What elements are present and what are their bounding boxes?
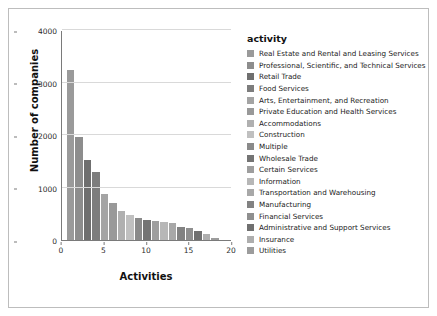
legend-item-label: Private Education and Health Services: [259, 108, 396, 115]
y-tick-mark: [14, 241, 17, 242]
x-axis-label: Activities: [61, 271, 231, 282]
x-tick-label: 10: [141, 242, 151, 255]
legend-swatch-icon: [247, 201, 254, 208]
legend-swatch-icon: [247, 155, 254, 162]
legend-swatch-icon: [247, 50, 254, 57]
legend-item-label: Information: [259, 178, 301, 185]
legend-item[interactable]: Information: [247, 176, 427, 188]
gridline: [62, 134, 231, 135]
legend-item[interactable]: Wholesale Trade: [247, 152, 427, 164]
legend-swatch-icon: [247, 120, 254, 127]
legend-swatch-icon: [247, 166, 254, 173]
x-tick-mark: [61, 242, 62, 245]
legend-item[interactable]: Transportation and Warehousing: [247, 187, 427, 199]
bar: [203, 234, 211, 240]
x-tick-mark: [231, 242, 232, 245]
legend-items: Real Estate and Rental and Leasing Servi…: [247, 48, 427, 257]
legend-title: activity: [247, 33, 427, 44]
legend-swatch-icon: [247, 189, 254, 196]
y-tick-mark: [14, 189, 17, 190]
bar: [186, 228, 194, 240]
legend-swatch-icon: [247, 236, 254, 243]
legend-item-label: Food Services: [259, 85, 309, 92]
x-tick-mark: [146, 242, 147, 245]
legend-item[interactable]: Accommodations: [247, 118, 427, 130]
y-axis-label: Number of companies: [29, 16, 40, 206]
x-tick-mark: [104, 242, 105, 245]
gridline: [62, 82, 231, 83]
legend-swatch-icon: [247, 62, 254, 69]
legend-item-label: Manufacturing: [259, 201, 311, 208]
legend-item-label: Arts, Entertainment, and Recreation: [259, 97, 389, 104]
legend-item-label: Retail Trade: [259, 73, 301, 80]
bar: [211, 238, 219, 240]
legend-item-label: Utilities: [259, 247, 286, 254]
legend-item-label: Accommodations: [259, 120, 321, 127]
legend-item[interactable]: Administrative and Support Services: [247, 222, 427, 234]
y-tick-label: 0: [17, 237, 57, 246]
bar: [101, 194, 109, 240]
legend-item-label: Construction: [259, 131, 305, 138]
y-tick-mark: [14, 84, 17, 85]
legend-item[interactable]: Food Services: [247, 83, 427, 95]
legend-item[interactable]: Real Estate and Rental and Leasing Servi…: [247, 48, 427, 60]
x-tick-label: 0: [59, 242, 64, 255]
legend-item[interactable]: Multiple: [247, 141, 427, 153]
bar: [75, 137, 83, 240]
bar: [92, 172, 100, 240]
bar: [169, 223, 177, 240]
gridline: [62, 187, 231, 188]
gridline: [62, 29, 231, 30]
chart-page: 01000200030004000 05101520 Activities Nu…: [0, 0, 437, 316]
legend-item-label: Financial Services: [259, 213, 323, 220]
legend-item[interactable]: Arts, Entertainment, and Recreation: [247, 94, 427, 106]
legend: activity Real Estate and Rental and Leas…: [247, 33, 427, 257]
legend-item[interactable]: Professional, Scientific, and Technical …: [247, 60, 427, 72]
y-tick-mark: [14, 136, 17, 137]
x-tick-label: 15: [184, 242, 194, 255]
plot-axes: [61, 31, 231, 241]
legend-item[interactable]: Utilities: [247, 245, 427, 257]
y-tick-mark: [14, 31, 17, 32]
legend-item[interactable]: Financial Services: [247, 210, 427, 222]
bar: [67, 70, 75, 240]
bar: [152, 221, 160, 240]
legend-swatch-icon: [247, 247, 254, 254]
legend-swatch-icon: [247, 97, 254, 104]
legend-item[interactable]: Private Education and Health Services: [247, 106, 427, 118]
bar: [160, 222, 168, 240]
legend-item[interactable]: Construction: [247, 129, 427, 141]
legend-item-label: Insurance: [259, 236, 294, 243]
legend-item-label: Real Estate and Rental and Leasing Servi…: [259, 50, 419, 57]
bar: [135, 218, 143, 240]
bar: [194, 231, 202, 240]
x-tick-label: 5: [101, 242, 106, 255]
legend-item-label: Certain Services: [259, 166, 318, 173]
legend-item-label: Administrative and Support Services: [259, 224, 390, 231]
plot-area: 01000200030004000 05101520: [61, 31, 231, 256]
chart-frame: 01000200030004000 05101520 Activities Nu…: [8, 8, 429, 308]
bar: [126, 215, 134, 240]
legend-swatch-icon: [247, 73, 254, 80]
legend-swatch-icon: [247, 108, 254, 115]
legend-swatch-icon: [247, 224, 254, 231]
legend-item[interactable]: Certain Services: [247, 164, 427, 176]
legend-item-label: Transportation and Warehousing: [259, 189, 376, 196]
legend-swatch-icon: [247, 143, 254, 150]
x-tick-mark: [188, 242, 189, 245]
legend-swatch-icon: [247, 131, 254, 138]
x-tick-label: 20: [226, 242, 236, 255]
legend-item[interactable]: Manufacturing: [247, 199, 427, 211]
legend-item-label: Professional, Scientific, and Technical …: [259, 62, 426, 69]
bar: [84, 160, 92, 240]
legend-item-label: Multiple: [259, 143, 288, 150]
bar: [109, 203, 117, 240]
bar: [143, 220, 151, 240]
legend-item[interactable]: Insurance: [247, 234, 427, 246]
legend-swatch-icon: [247, 85, 254, 92]
legend-item[interactable]: Retail Trade: [247, 71, 427, 83]
bar-series: [62, 31, 231, 240]
legend-swatch-icon: [247, 213, 254, 220]
legend-swatch-icon: [247, 178, 254, 185]
bar: [118, 211, 126, 240]
